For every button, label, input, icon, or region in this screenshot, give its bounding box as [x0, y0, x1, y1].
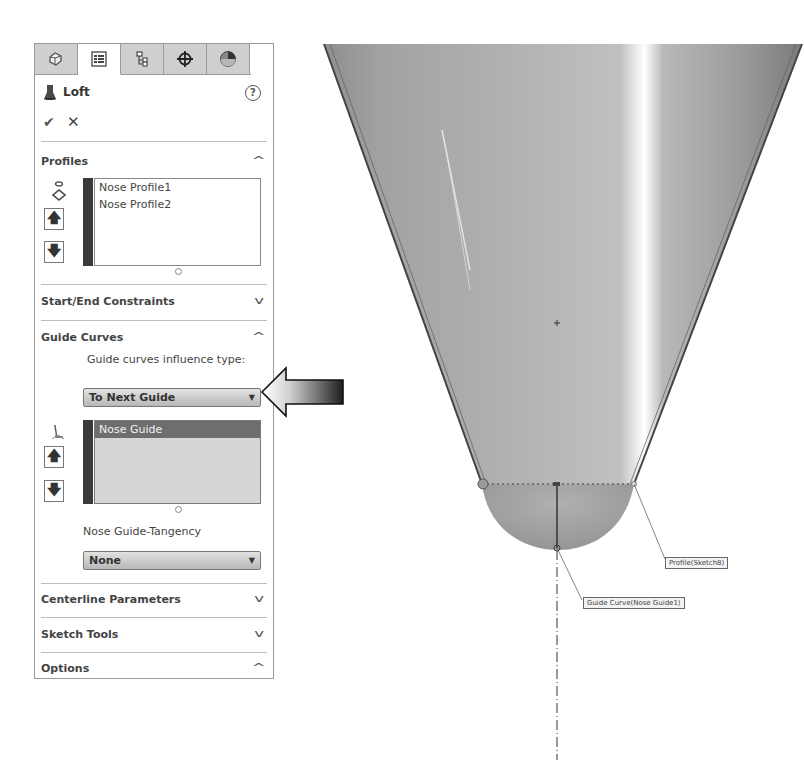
dimxpert-tab[interactable]	[164, 44, 207, 74]
divider	[41, 617, 267, 618]
property-list-icon	[89, 49, 109, 69]
arrow-up-icon: 🡅	[47, 445, 61, 469]
guide-curves-listbox[interactable]: Nose Guide	[94, 420, 261, 504]
tangency-label: Nose Guide-Tangency	[83, 525, 201, 538]
guide-curve-callout-label[interactable]: Guide Curve(Nose Guide1)	[583, 597, 685, 609]
guide-curve-selection-icon	[49, 423, 67, 441]
collapse-chevron-icon[interactable]: ^	[251, 330, 265, 343]
featuremanager-tab[interactable]	[35, 44, 78, 74]
influence-type-value: To Next Guide	[89, 391, 175, 404]
feature-header: Loft	[43, 84, 90, 100]
expand-chevron-icon[interactable]: v	[255, 592, 265, 605]
divider	[41, 320, 267, 321]
profiles-listbox[interactable]: Nose Profile1 Nose Profile2	[94, 178, 261, 266]
loft-icon	[43, 84, 57, 100]
nose-surface[interactable]	[482, 484, 634, 550]
arrow-down-icon: 🡇	[47, 479, 61, 503]
move-down-button[interactable]: 🡇	[44, 480, 64, 502]
move-up-button[interactable]: 🡅	[44, 208, 64, 230]
options-section-title[interactable]: Options	[41, 662, 89, 675]
divider	[41, 583, 267, 584]
arrow-down-icon: 🡇	[47, 240, 61, 264]
expand-chevron-icon[interactable]: v	[255, 294, 265, 307]
divider	[41, 652, 267, 653]
propertymanager-tab[interactable]	[78, 44, 121, 75]
collapse-chevron-icon[interactable]: ^	[251, 661, 265, 674]
configuration-icon	[132, 49, 152, 69]
appearance-sphere-icon	[218, 49, 238, 69]
start-end-constraints-section-title[interactable]: Start/End Constraints	[41, 295, 175, 308]
ok-button[interactable]: ✔	[43, 114, 55, 130]
selection-color-bar	[83, 420, 93, 504]
graphics-viewport[interactable]	[320, 40, 804, 761]
crosshair-icon	[175, 49, 195, 69]
selection-color-bar	[83, 178, 93, 266]
move-down-button[interactable]: 🡇	[44, 241, 64, 263]
dropdown-arrow-icon: ▼	[249, 552, 255, 569]
loft-property-manager: Loft ? ✔ ✕ Profiles ^ 🡅 🡇 Nose Profile1 …	[34, 43, 274, 679]
profiles-section-title[interactable]: Profiles	[41, 155, 88, 168]
centerline-parameters-section-title[interactable]: Centerline Parameters	[41, 593, 181, 606]
list-item-selected[interactable]: Nose Guide	[95, 421, 260, 438]
divider	[41, 284, 267, 285]
collapse-chevron-icon[interactable]: ^	[251, 154, 265, 167]
feature-title: Loft	[63, 85, 90, 99]
display-manager-tab[interactable]	[207, 44, 250, 74]
resize-grip-icon[interactable]	[175, 268, 182, 275]
guide-curves-section-title[interactable]: Guide Curves	[41, 331, 123, 344]
list-item[interactable]: Nose Profile1	[95, 179, 260, 196]
dropdown-arrow-icon: ▼	[249, 389, 255, 406]
profile-endpoint-icon[interactable]	[478, 479, 488, 489]
profile-selection-icon	[51, 180, 67, 202]
configurationmanager-tab[interactable]	[121, 44, 164, 74]
move-up-button[interactable]: 🡅	[44, 446, 64, 468]
help-icon[interactable]: ?	[245, 85, 261, 101]
expand-chevron-icon[interactable]: v	[255, 627, 265, 640]
manager-tabs	[35, 44, 251, 75]
feature-tree-icon	[46, 49, 66, 69]
loft-cone-body[interactable]	[324, 44, 802, 484]
tangency-value: None	[89, 554, 121, 567]
resize-grip-icon[interactable]	[175, 506, 182, 513]
arrow-up-icon: 🡅	[47, 207, 61, 231]
cancel-button[interactable]: ✕	[67, 113, 80, 131]
tangency-dropdown[interactable]: None ▼	[83, 551, 261, 570]
profile-callout-label[interactable]: Profile(Sketch8)	[665, 557, 728, 569]
sketch-tools-section-title[interactable]: Sketch Tools	[41, 628, 118, 641]
influence-type-dropdown[interactable]: To Next Guide ▼	[83, 388, 261, 407]
influence-type-label: Guide curves influence type:	[87, 353, 245, 366]
divider	[41, 141, 267, 142]
list-item[interactable]: Nose Profile2	[95, 196, 260, 213]
